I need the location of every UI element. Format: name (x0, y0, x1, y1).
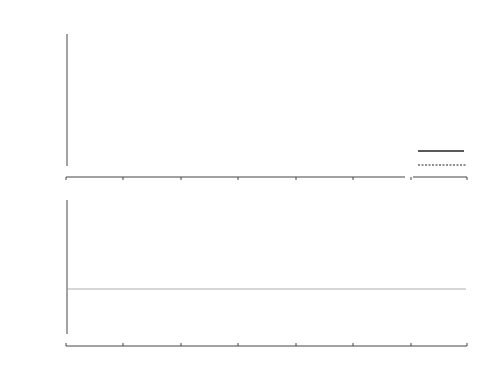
bottom-chart (66, 200, 467, 346)
legend (418, 151, 466, 165)
chart-figure (0, 0, 492, 378)
top-chart (66, 34, 467, 180)
